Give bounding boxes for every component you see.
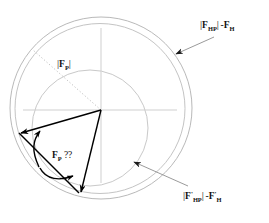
label-fp-bar-close: | (69, 58, 71, 69)
label-fhpp-bar-close: | (202, 190, 204, 201)
label-fhp-subscript2: H (229, 25, 234, 32)
label-fpq-marks: ?? (64, 150, 72, 160)
label-fhp-subscript: HP (208, 25, 217, 32)
label-fp-question: FP?? (52, 150, 72, 162)
dotted-radius-line (33, 50, 101, 110)
label-fhp-minus-fh: |FHP|-FH (200, 19, 234, 32)
label-fhp-bar-close: | (217, 19, 219, 30)
inner-circle (32, 70, 148, 186)
label-fhp-prime-minus-fh-prime: |F'HP|-F'H (183, 190, 221, 203)
label-fhpp-subscript: HP (193, 196, 202, 203)
label-fp-magnitude: |FP| (57, 58, 71, 71)
vector-diagram-figure: |FP| FP?? |FHP|-FH |F'HP|-F'H (0, 0, 269, 223)
leader-top-right (176, 37, 214, 54)
vector-fp-left (21, 110, 101, 133)
vector-fp-down (81, 110, 101, 192)
label-fhpp-subscript2: H (216, 196, 221, 203)
label-fpq-subscript: P (58, 155, 62, 162)
